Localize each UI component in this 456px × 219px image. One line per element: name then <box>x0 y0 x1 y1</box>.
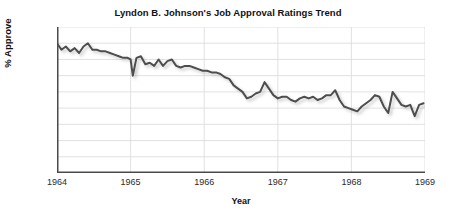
plot-svg <box>57 27 425 173</box>
x-axis-title: Year <box>57 196 425 206</box>
x-tick-label: 1968 <box>331 178 371 187</box>
data-series-approve <box>57 43 424 116</box>
chart-title: Lyndon B. Johnson's Job Approval Ratings… <box>0 7 456 18</box>
x-tick-label: 1964 <box>37 178 77 187</box>
x-tick-label: 1967 <box>258 178 298 187</box>
y-axis-title: % Approve <box>2 3 16 83</box>
x-tick-label: 1966 <box>184 178 224 187</box>
x-tick-label: 1969 <box>405 178 445 187</box>
x-tick-label: 1965 <box>111 178 151 187</box>
chart-figure: Lyndon B. Johnson's Job Approval Ratings… <box>0 0 456 219</box>
plot-area <box>57 27 425 173</box>
